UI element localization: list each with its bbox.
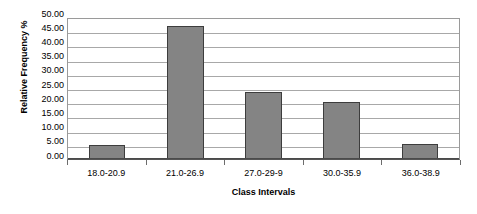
x-axis-tick [303,160,304,165]
y-axis-tick-label: 10.00 [20,123,64,132]
y-axis-tick-label: 50.00 [20,10,64,19]
x-axis-tick-marks [67,160,460,165]
bar-slot [224,19,302,159]
x-axis-tick-labels: 18.0-20.921.0-26.927.0-29-930.0-35.936.0… [67,168,460,178]
y-axis-tick-label: 20.00 [20,95,64,104]
x-axis-tick-label: 21.0-26.9 [146,168,225,178]
x-axis-title: Class Intervals [67,187,460,197]
bar-slot [381,19,459,159]
x-axis-tick [460,160,461,165]
y-axis-tick-label: 15.00 [20,109,64,118]
x-axis-tick-label: 36.0-38.9 [381,168,460,178]
y-axis-tick-labels: 50.0045.0040.0035.0030.0025.0020.0015.00… [20,14,64,160]
bar[interactable] [402,144,439,159]
x-axis-tick-label: 30.0-35.9 [303,168,382,178]
bar-slot [68,19,146,159]
x-axis-tick [67,160,68,165]
bar-series [68,19,459,159]
x-axis-line [68,158,459,159]
y-axis-tick-label: 30.00 [20,66,64,75]
x-axis-tick [381,160,382,165]
plot-area [67,18,460,160]
histogram-chart: Relative Frequency % 50.0045.0040.0035.0… [0,0,477,214]
x-axis-tick [146,160,147,165]
bar[interactable] [323,102,360,159]
y-axis-tick-label: 0.00 [20,152,64,161]
bar[interactable] [245,92,282,159]
y-axis-tick-label: 25.00 [20,81,64,90]
bar-slot [303,19,381,159]
y-axis-tick-label: 5.00 [20,137,64,146]
bar[interactable] [167,26,204,159]
x-axis-tick [224,160,225,165]
x-axis-tick-label: 27.0-29-9 [224,168,303,178]
y-axis-tick-label: 45.00 [20,24,64,33]
bar[interactable] [89,145,126,159]
x-axis-tick-label: 18.0-20.9 [67,168,146,178]
y-axis-tick-label: 35.00 [20,52,64,61]
bar-slot [146,19,224,159]
y-axis-tick-label: 40.00 [20,38,64,47]
